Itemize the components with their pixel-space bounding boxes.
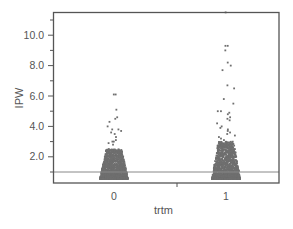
y-tick-label: 8.0 — [14, 59, 44, 71]
y-tick-label: 6.0 — [14, 90, 44, 102]
y-axis-ticks — [48, 20, 53, 172]
x-tick-label: 1 — [216, 190, 236, 202]
x-axis-label: trtm — [154, 204, 173, 216]
y-tick-label: 2.0 — [14, 150, 44, 162]
plot-frame — [54, 13, 280, 184]
y-tick-label: 4.0 — [14, 120, 44, 132]
x-tick-label: 0 — [104, 190, 124, 202]
data-points — [99, 12, 241, 180]
y-tick-label: 10.0 — [14, 29, 44, 41]
